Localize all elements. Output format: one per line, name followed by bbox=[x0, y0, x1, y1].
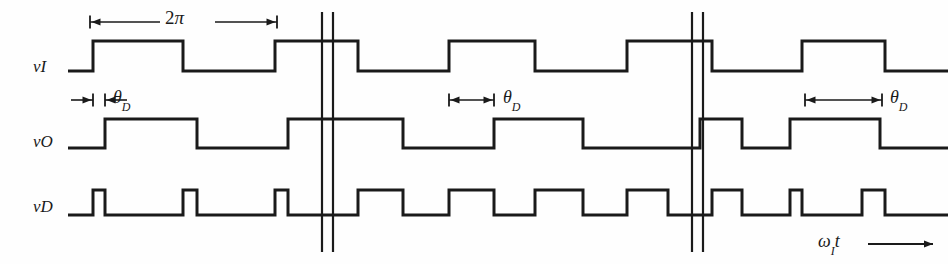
theta-d-arrow-right-3 bbox=[872, 97, 881, 104]
trace-vD bbox=[68, 190, 948, 215]
signal-label-vi: vI bbox=[33, 57, 46, 77]
period-label-2pi: 2π bbox=[165, 7, 184, 29]
trace-vI bbox=[68, 41, 948, 71]
signal-label-vo: vO bbox=[33, 132, 53, 152]
dimension-arrows bbox=[71, 16, 933, 248]
x-axis-label-omega-t: ωIt bbox=[818, 231, 840, 256]
theta-d-label-3: θD bbox=[890, 87, 908, 112]
signal-label-vd: vD bbox=[33, 197, 53, 217]
signal-traces bbox=[68, 41, 948, 215]
waveform-figure: vI vO vD 2π θD θD θD ωIt bbox=[0, 0, 948, 264]
theta-d-arrow-left-1 bbox=[83, 97, 92, 104]
theta-d-label-1: θD bbox=[113, 87, 131, 112]
period-arrow-left bbox=[92, 19, 101, 26]
theta-d-arrow-right-2 bbox=[484, 97, 493, 104]
theta-d-arrow-left-3 bbox=[807, 97, 816, 104]
waveform-canvas bbox=[0, 0, 948, 264]
period-arrow-right bbox=[267, 19, 276, 26]
x-axis-arrow-head bbox=[924, 241, 933, 248]
theta-d-label-2: θD bbox=[503, 87, 521, 112]
trace-vO bbox=[68, 119, 948, 148]
theta-d-arrow-left-2 bbox=[451, 97, 460, 104]
